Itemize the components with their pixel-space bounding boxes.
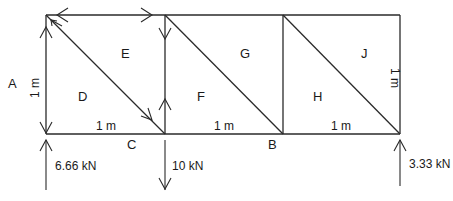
space-label-b: B [268,137,277,152]
dimension-panel-2-width: 1 m [214,119,234,133]
space-label-a: A [8,76,17,91]
diagonal-member-3 [283,15,400,134]
left-reaction-label: 6.66 kN [55,159,96,173]
space-label-h: H [313,89,322,104]
dimension-right-height: 1 m [388,68,402,88]
dimension-panel-1-width: 1 m [96,119,116,133]
dimension-left-height: 1 m [28,78,42,98]
right-reaction-label: 3.33 kN [409,157,450,171]
dimension-panel-3-width: 1 m [331,119,351,133]
space-label-g: G [240,46,250,61]
applied-load-label: 10 kN [172,159,203,173]
space-label-e: E [121,46,130,61]
arrow-diagonal-down-icon [141,108,152,120]
space-label-j: J [361,46,368,61]
truss-diagram: A D E C F G B H J 1 m 1 m 1 m 1 m 1 m 6.… [0,0,453,201]
diagonal-member-1 [46,15,165,134]
space-label-d: D [78,89,87,104]
diagonal-member-2 [165,15,283,134]
space-label-f: F [197,89,205,104]
space-label-c: C [127,137,136,152]
